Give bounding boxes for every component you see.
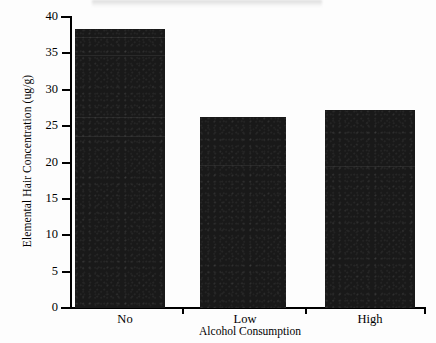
y-tick-label-25: 25: [28, 119, 58, 131]
cropped-caption-remnant: [92, 0, 322, 7]
x-axis-label: Alcohol Consumption: [75, 325, 425, 337]
y-tick-label-15: 15: [28, 192, 58, 204]
y-tick-mark-35: [62, 52, 70, 54]
y-tick-mark-25: [62, 125, 70, 127]
bar-low: [200, 117, 286, 308]
y-tick-label-40: 40: [28, 10, 58, 22]
y-tick-label-35: 35: [28, 46, 58, 58]
y-tick-mark-20: [62, 162, 70, 164]
bar-high: [325, 110, 415, 308]
y-tick-mark-30: [62, 89, 70, 91]
plot-area: [70, 17, 425, 308]
y-tick-label-0: 0: [28, 301, 58, 313]
y-tick-mark-15: [62, 198, 70, 200]
y-tick-label-10: 10: [28, 228, 58, 240]
bar-chart-figure: Elemental Hair Concentration (ug/g) 40 3…: [0, 0, 436, 343]
y-tick-mark-10: [62, 234, 70, 236]
y-tick-mark-0: [61, 307, 70, 309]
y-tick-label-20: 20: [28, 156, 58, 168]
x-tick-mark-1: [182, 307, 184, 314]
bar-no: [75, 29, 165, 308]
x-tick-mark-3: [424, 307, 426, 314]
y-tick-label-30: 30: [28, 83, 58, 95]
y-tick-label-5: 5: [28, 265, 58, 277]
x-tick-mark-2: [305, 307, 307, 314]
y-tick-mark-5: [62, 271, 70, 273]
y-tick-mark-40: [61, 16, 70, 18]
